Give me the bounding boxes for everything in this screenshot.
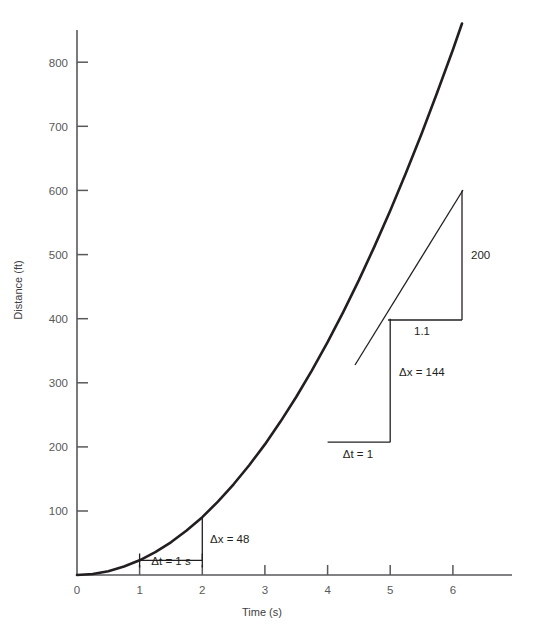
x-tick-labels-group: 0 1 2 3 4 5 6 [74, 584, 456, 596]
triangle-3-run-label: 1.1 [414, 325, 430, 337]
y-tick-label-500: 500 [49, 249, 68, 261]
y-tick-label-100: 100 [49, 505, 68, 517]
secant-triangle-2: Δt = 1 Δx = 144 [328, 319, 446, 460]
tangent-triangle-3: 1.1 200 [388, 190, 490, 337]
y-tick-label-300: 300 [49, 377, 68, 389]
y-tick-label-400: 400 [49, 313, 68, 325]
distance-curve [77, 24, 462, 576]
distance-time-chart: 800 700 600 500 400 300 200 100 0 1 2 3 … [0, 0, 537, 629]
triangle-2-dt-label: Δt = 1 [343, 448, 373, 460]
y-axis-title: Distance (ft) [12, 260, 24, 319]
chart-svg: 800 700 600 500 400 300 200 100 0 1 2 3 … [0, 0, 537, 629]
x-tick-label-5: 5 [387, 584, 393, 596]
triangle-3-rise-label: 200 [471, 249, 490, 261]
y-tick-labels-group: 800 700 600 500 400 300 200 100 [49, 57, 68, 518]
axes-group [77, 30, 512, 575]
triangle-2-dx-label: Δx = 144 [399, 366, 445, 378]
triangle-1-dx-label: Δx = 48 [210, 533, 249, 545]
tangent-line-at-5 [355, 190, 463, 365]
x-tick-label-3: 3 [262, 584, 268, 596]
y-tick-label-800: 800 [49, 57, 68, 69]
x-tick-label-4: 4 [324, 584, 331, 596]
x-axis-title: Time (s) [242, 606, 282, 618]
y-tick-label-700: 700 [49, 121, 68, 133]
y-tick-label-200: 200 [49, 441, 68, 453]
x-tick-label-2: 2 [199, 584, 205, 596]
x-tick-label-1: 1 [136, 584, 142, 596]
y-tick-label-600: 600 [49, 185, 68, 197]
triangle-1-dt-label: Δt = 1 s [151, 555, 191, 567]
x-tick-label-6: 6 [450, 584, 456, 596]
y-ticks-group [77, 62, 88, 511]
x-tick-label-0: 0 [74, 584, 80, 596]
